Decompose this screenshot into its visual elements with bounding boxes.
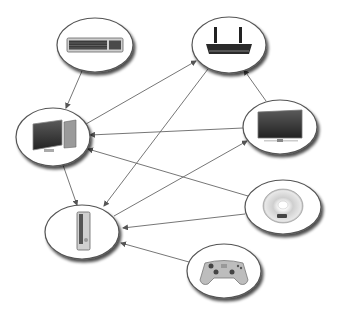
node-console: [45, 205, 119, 259]
edge-gamepad-to-console: [121, 243, 189, 262]
node-tv: [243, 100, 317, 154]
node-keyboard: [57, 18, 133, 72]
node-router: [192, 17, 266, 73]
game-console-icon: [77, 212, 90, 250]
edge-keyboard-to-pc: [66, 71, 82, 108]
edge-pc-to-console: [63, 165, 77, 205]
device-network-diagram: [0, 0, 338, 312]
keyboard-icon: [67, 38, 123, 52]
edge-console-to-tv: [114, 141, 247, 216]
edge-dvd-to-console: [123, 214, 245, 228]
edge-tv-to-router: [244, 70, 266, 101]
edge-router-to-console: [104, 69, 208, 206]
node-dvd: [245, 180, 321, 234]
edge-dvd-to-pc: [88, 149, 248, 196]
node-gamepad: [187, 244, 261, 298]
node-pc: [16, 108, 90, 166]
dvd-disc-icon: [263, 189, 303, 223]
flat-screen-tv-icon: [258, 110, 302, 142]
edge-tv-to-pc: [90, 128, 243, 135]
